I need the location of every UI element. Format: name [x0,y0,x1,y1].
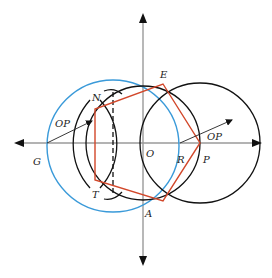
label-p: P [202,154,210,165]
label-n: N [91,92,102,103]
label-op-left: OP [55,118,70,129]
label-o: O [146,148,154,159]
label-op-right: OP [207,131,222,142]
label-a: A [144,208,152,219]
arc-left-lens [100,100,117,188]
arc-bottom-tick [104,192,122,199]
y-axis-top-arrow-icon [139,13,147,23]
label-e: E [159,69,168,80]
label-t: T [92,189,100,200]
y-axis-bottom-arrow-icon [139,256,147,266]
label-r: R [176,154,185,165]
geometry-diagram: N E OP OP G O R P T A [0,0,272,278]
arc-right-lens [73,100,90,188]
x-axis-left-arrow-icon [14,139,24,147]
label-g: G [33,156,41,167]
